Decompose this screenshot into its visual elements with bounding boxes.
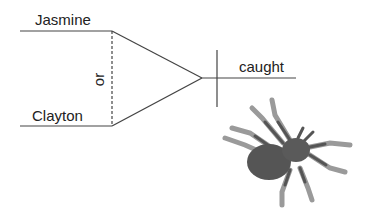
sentence-diagram: Jasmine Clayton or caught (0, 0, 371, 217)
subject-jasmine: Jasmine (35, 12, 91, 27)
fork-lower (112, 78, 202, 126)
spider-icon (225, 100, 350, 205)
conjunction-or: or (91, 73, 106, 86)
subject-clayton: Clayton (32, 108, 83, 123)
fork-upper (112, 31, 202, 78)
predicate-caught: caught (239, 59, 284, 74)
